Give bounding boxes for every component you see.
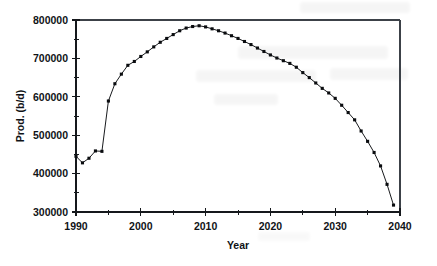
data-point-marker	[236, 37, 239, 40]
data-point-marker	[385, 183, 388, 186]
data-point-marker	[373, 151, 376, 154]
x-axis-tick-labels: 199020002010202020302040	[64, 220, 412, 232]
data-point-marker	[198, 24, 201, 27]
data-point-marker	[152, 45, 155, 48]
data-point-marker	[204, 25, 207, 28]
y-axis-tick-labels: 300000400000500000600000700000800000	[33, 14, 68, 218]
data-point-marker	[256, 46, 259, 49]
data-point-marker	[288, 62, 291, 65]
x-tick-label: 2010	[194, 220, 218, 232]
y-tick-label: 400000	[33, 167, 68, 179]
data-point-marker	[314, 81, 317, 84]
data-point-marker	[126, 64, 129, 67]
data-point-marker	[340, 104, 343, 107]
data-point-marker	[282, 59, 285, 62]
data-point-marker	[327, 91, 330, 94]
data-point-marker	[262, 50, 265, 53]
data-point-marker	[334, 97, 337, 100]
data-point-marker	[120, 73, 123, 76]
data-point-marker	[159, 41, 162, 44]
data-point-marker	[366, 140, 369, 143]
data-point-marker	[87, 157, 90, 160]
data-point-marker	[230, 34, 233, 37]
data-point-marker	[295, 66, 298, 69]
data-point-marker	[223, 32, 226, 35]
data-point-marker	[133, 60, 136, 63]
y-tick-label: 700000	[33, 52, 68, 64]
data-point-marker	[185, 27, 188, 30]
data-point-marker	[139, 55, 142, 58]
x-tick-label: 1990	[64, 220, 88, 232]
y-tick-label: 300000	[33, 206, 68, 218]
data-point-marker	[107, 99, 110, 102]
x-axis-title: Year	[227, 239, 249, 251]
data-point-marker	[100, 150, 103, 153]
y-tick-label: 800000	[33, 14, 68, 26]
data-point-marker	[146, 50, 149, 53]
x-tick-label: 2040	[388, 220, 412, 232]
data-point-marker	[81, 161, 84, 164]
data-point-marker	[360, 129, 363, 132]
data-point-marker	[347, 111, 350, 114]
production-forecast-chart: 300000400000500000600000700000800000 199…	[0, 0, 437, 266]
series-line-production	[76, 26, 394, 205]
x-tick-label: 2000	[129, 220, 153, 232]
y-axis-title: Prod. (b/d)	[14, 90, 26, 143]
data-series-production	[74, 24, 395, 206]
data-point-marker	[392, 204, 395, 207]
data-point-marker	[113, 82, 116, 85]
data-point-marker	[165, 37, 168, 40]
data-point-marker	[308, 76, 311, 79]
data-point-marker	[211, 27, 214, 30]
data-point-marker	[301, 71, 304, 74]
data-point-marker	[172, 33, 175, 36]
data-point-marker	[74, 155, 77, 158]
series-markers-production	[74, 24, 395, 206]
data-point-marker	[269, 53, 272, 56]
x-tick-label: 2020	[259, 220, 283, 232]
data-point-marker	[94, 149, 97, 152]
y-tick-label: 500000	[33, 129, 68, 141]
x-tick-label: 2030	[324, 220, 348, 232]
data-point-marker	[353, 118, 356, 121]
data-point-marker	[178, 29, 181, 32]
data-point-marker	[275, 56, 278, 59]
data-point-marker	[249, 43, 252, 46]
chart-canvas: 300000400000500000600000700000800000 199…	[0, 0, 437, 266]
data-point-marker	[321, 87, 324, 90]
data-point-marker	[217, 29, 220, 32]
data-point-marker	[379, 164, 382, 167]
data-point-marker	[191, 25, 194, 28]
data-point-marker	[243, 40, 246, 43]
y-tick-label: 600000	[33, 91, 68, 103]
